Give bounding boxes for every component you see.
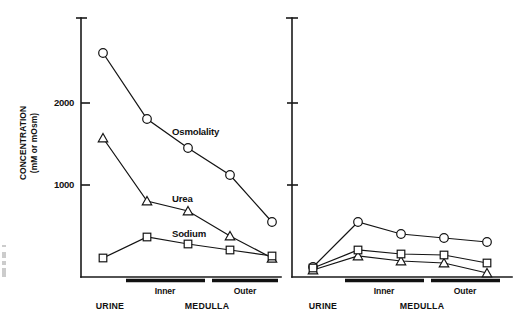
- right-region-label-inner: Inner: [374, 286, 395, 296]
- right-osmolality-point-2: [354, 218, 363, 227]
- left-osmolality-point-5: [268, 218, 277, 227]
- left-sodium-point-5: [268, 252, 276, 260]
- right-sodium-point-3: [397, 250, 405, 258]
- left-urea-point-4: [225, 232, 234, 240]
- left-label-sodium: Sodium: [172, 228, 206, 239]
- right-osmolality-point-4: [440, 234, 449, 243]
- left-osmolality-point-2: [143, 115, 152, 124]
- scan-artifact: [2, 245, 6, 277]
- left-sodium-point-2: [143, 233, 151, 241]
- right-osmolality-point-5: [483, 238, 492, 247]
- left-label-urea: Urea: [172, 193, 193, 204]
- right-panel: Inner Outer URINE MEDULLA: [286, 18, 512, 311]
- right-sodium-point-1: [309, 264, 317, 272]
- left-osmolality-point-1: [99, 49, 108, 58]
- right-group-label-urine: URINE: [309, 301, 337, 311]
- right-osmolality-point-3: [397, 230, 406, 239]
- left-ytick-label-2000: 2000: [54, 97, 74, 108]
- left-label-osmolality: Osmolality: [172, 126, 220, 137]
- left-group-label-medulla: MEDULLA: [185, 301, 230, 311]
- left-sodium-point-4: [226, 246, 234, 254]
- right-group-label-medulla: MEDULLA: [400, 301, 445, 311]
- left-region-label-outer: Outer: [234, 286, 257, 296]
- left-sodium-point-3: [184, 240, 192, 248]
- right-sodium-point-5: [483, 259, 491, 267]
- y-axis-title: CONCENTRATION (mM or mOsm): [18, 106, 39, 180]
- y-axis-title-line2: (mM or mOsm): [29, 113, 39, 173]
- left-osmolality-point-4: [226, 171, 235, 180]
- left-urea-point-1: [98, 134, 107, 142]
- right-sodium-point-4: [440, 251, 448, 259]
- y-axis-title-line1: CONCENTRATION: [18, 106, 28, 180]
- two-panel-line-chart: CONCENTRATION (mM or mOsm) 2000 1000: [0, 0, 516, 315]
- left-sodium-point-1: [99, 254, 107, 262]
- figure-container: CONCENTRATION (mM or mOsm) 2000 1000: [0, 0, 516, 315]
- left-osmolality-point-3: [184, 144, 193, 153]
- left-panel: CONCENTRATION (mM or mOsm) 2000 1000: [18, 18, 281, 311]
- left-ytick-label-1000: 1000: [54, 179, 74, 190]
- left-region-label-inner: Inner: [155, 286, 176, 296]
- left-group-label-urine: URINE: [96, 301, 124, 311]
- left-urea-point-2: [142, 197, 151, 205]
- right-region-label-outer: Outer: [454, 286, 477, 296]
- right-sodium-point-2: [354, 246, 362, 254]
